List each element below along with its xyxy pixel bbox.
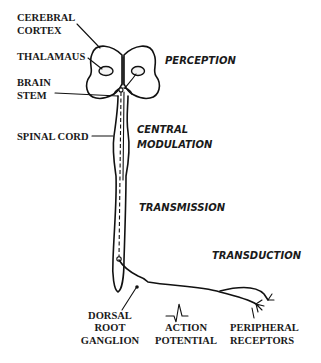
label-thalamus: THALAMAUS bbox=[17, 51, 85, 62]
label-cerebral-cortex: CEREBRALCORTEX bbox=[17, 12, 75, 36]
receptor-endings-2 bbox=[268, 294, 274, 300]
peripheral-receptors-leader bbox=[252, 308, 254, 318]
pain-pathway-diagram: CEREBRALCORTEX THALAMAUS BRAINSTEM SPINA… bbox=[0, 0, 321, 363]
label-perception: PERCEPTION bbox=[165, 55, 236, 66]
spinal-tract bbox=[119, 92, 121, 258]
receptor-endings-1 bbox=[256, 300, 264, 312]
nerve-fiber bbox=[119, 260, 256, 304]
label-peripheral-receptors: PERIPHERALRECEPTORS bbox=[230, 322, 299, 346]
label-central-modulation: CENTRALMODULATION bbox=[137, 124, 213, 150]
thalamic-projection bbox=[125, 74, 136, 88]
brain-stem-leader bbox=[55, 93, 118, 96]
label-spinal-cord: SPINAL CORD bbox=[17, 131, 89, 142]
label-transduction: TRANSDUCTION bbox=[212, 250, 302, 261]
dorsal-root-ganglion-leader bbox=[122, 288, 136, 310]
cerebral-cortex-leader bbox=[77, 24, 100, 48]
label-dorsal-root-ganglion: DORSALROOTGANGLION bbox=[81, 310, 140, 346]
label-transmission: TRANSMISSION bbox=[139, 202, 226, 213]
label-action-potential: ACTIONPOTENTIAL bbox=[155, 322, 217, 346]
peripheral-nerve bbox=[119, 260, 274, 312]
action-potential-icon bbox=[166, 304, 188, 322]
spinal-tract-2 bbox=[123, 92, 124, 180]
brainstem-dot bbox=[119, 88, 123, 92]
right-thalamus-nucleus bbox=[132, 67, 145, 76]
label-brain-stem: BRAINSTEM bbox=[17, 77, 51, 101]
